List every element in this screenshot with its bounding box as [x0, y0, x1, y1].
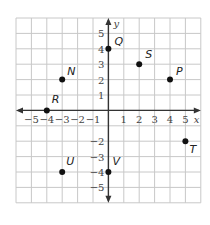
x-tick-label: 3	[151, 114, 157, 125]
point-marker	[105, 169, 111, 175]
y-tick-label: −4	[90, 167, 105, 178]
point-label: N	[67, 65, 75, 78]
point-label: R	[52, 93, 60, 106]
y-tick-label: 1	[98, 90, 104, 101]
x-tick-label: −5	[24, 114, 39, 125]
point-marker	[182, 138, 188, 144]
point-label: S	[145, 48, 152, 61]
x-axis-label: x	[194, 114, 200, 125]
y-tick-label: 5	[98, 28, 104, 39]
x-tick-label: 1	[121, 114, 127, 125]
y-tick-label: −5	[90, 182, 105, 193]
x-tick-label: −4	[39, 114, 54, 125]
x-tick-label: −3	[55, 114, 70, 125]
point-label: U	[66, 155, 74, 168]
y-axis-up-arrow-icon	[105, 18, 111, 25]
x-tick-label: −2	[70, 114, 85, 125]
point-label: Q	[114, 35, 123, 48]
x-tick-label: 4	[167, 114, 173, 125]
y-tick-label: 3	[98, 59, 104, 70]
x-tick-label: 5	[182, 114, 188, 125]
point-marker	[105, 46, 111, 52]
point-marker	[136, 61, 142, 67]
point-marker	[167, 77, 173, 83]
coordinate-plane: xy −5−4−3−2−11234554321−2−3−4−5 QSNPRTUV	[0, 0, 210, 225]
y-axis-down-arrow-icon	[105, 196, 111, 203]
axes: xy	[16, 18, 201, 203]
y-tick-label: −3	[90, 152, 105, 163]
y-tick-label: −2	[90, 136, 105, 147]
x-axis-left-arrow-icon	[16, 107, 23, 113]
y-tick-label: 2	[98, 75, 104, 86]
y-tick-label: 4	[98, 44, 104, 55]
point-label: T	[189, 143, 197, 156]
x-axis-right-arrow-icon	[194, 107, 201, 113]
point-label: P	[176, 65, 183, 78]
point-marker	[59, 169, 65, 175]
x-tick-label: −1	[86, 114, 101, 125]
y-axis-label: y	[112, 18, 119, 29]
x-tick-label: 2	[136, 114, 142, 125]
point-marker	[59, 77, 65, 83]
point-marker	[44, 107, 50, 113]
plotted-points: QSNPRTUV	[44, 35, 198, 175]
